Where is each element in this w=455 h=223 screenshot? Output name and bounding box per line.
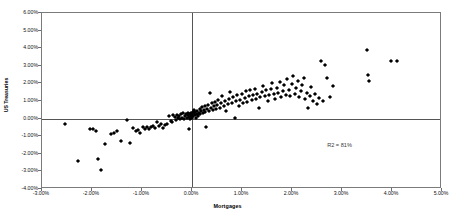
data-point <box>258 95 262 99</box>
zero-line-horizontal <box>42 119 440 120</box>
y-axis-tick-label: 5.00% <box>4 27 38 33</box>
data-point <box>270 80 274 84</box>
data-point <box>252 87 256 91</box>
data-point <box>298 89 302 93</box>
zero-line-vertical <box>192 13 193 187</box>
data-point <box>62 122 66 126</box>
x-axis-tick-mark <box>441 188 442 191</box>
y-axis-tick-label: -3.00% <box>4 167 38 173</box>
x-axis-tick-mark <box>241 188 242 191</box>
data-point <box>295 79 299 83</box>
data-point <box>235 93 239 97</box>
x-axis-tick-mark <box>291 188 292 191</box>
data-point <box>265 99 269 103</box>
data-point <box>217 106 221 110</box>
data-point <box>323 63 327 67</box>
data-point <box>276 90 280 94</box>
x-axis-tick-label: 5.00% <box>418 190 455 196</box>
data-point <box>331 84 335 88</box>
data-point <box>286 88 290 92</box>
y-axis-tick-label: -1.00% <box>4 132 38 138</box>
x-axis-tick-mark <box>341 188 342 191</box>
data-point <box>99 168 103 172</box>
data-point <box>204 124 208 128</box>
data-point <box>118 139 122 143</box>
data-point <box>228 90 232 94</box>
x-axis-tick-mark <box>391 188 392 191</box>
data-point <box>254 97 258 101</box>
data-point <box>186 127 190 131</box>
data-point <box>224 108 228 112</box>
data-point <box>313 92 317 96</box>
y-axis-tick-label: 0.00% <box>4 115 38 121</box>
data-point <box>115 129 119 133</box>
x-axis-title: Mortgages <box>0 203 455 209</box>
data-point <box>307 94 311 98</box>
data-point <box>274 85 278 89</box>
data-point <box>264 88 268 92</box>
data-point <box>102 142 106 146</box>
data-point <box>289 82 293 86</box>
x-axis-tick-mark <box>191 188 192 191</box>
data-point <box>153 126 157 130</box>
data-point <box>229 101 233 105</box>
data-point <box>389 59 393 63</box>
data-point <box>277 80 281 84</box>
x-axis-tick-mark <box>141 188 142 191</box>
data-point <box>366 72 370 76</box>
data-point <box>328 95 332 99</box>
data-point <box>170 120 174 124</box>
data-point <box>311 99 315 103</box>
data-point <box>303 97 307 101</box>
data-point <box>94 129 98 133</box>
y-axis-tick-label: -2.00% <box>4 150 38 156</box>
data-point <box>232 115 236 119</box>
y-axis-tick-label: 3.00% <box>4 62 38 68</box>
data-point <box>76 159 80 163</box>
data-point <box>268 87 272 91</box>
data-point <box>300 83 304 87</box>
data-point <box>138 131 142 135</box>
data-point <box>319 58 323 62</box>
data-point <box>297 95 301 99</box>
data-point <box>309 85 313 89</box>
data-point <box>395 59 399 63</box>
data-point <box>317 96 321 100</box>
data-point <box>279 95 283 99</box>
scatter-chart: US Treasuries 6.00%5.00%4.00%3.00%2.00%1… <box>0 0 455 223</box>
data-point <box>282 83 286 87</box>
r2-annotation: R2 = 81% <box>327 142 352 148</box>
data-point <box>367 79 371 83</box>
data-point <box>245 100 249 104</box>
data-point <box>301 76 305 80</box>
data-point <box>325 76 329 80</box>
data-point <box>96 157 100 161</box>
data-point <box>294 86 298 90</box>
data-point <box>239 91 243 95</box>
data-point <box>256 106 260 110</box>
data-point <box>321 99 325 103</box>
data-point <box>236 103 240 107</box>
x-axis-tick-mark <box>91 188 92 191</box>
data-point <box>291 74 295 78</box>
data-point <box>259 90 263 94</box>
data-point <box>280 89 284 93</box>
plot-area: R2 = 81% <box>41 12 441 188</box>
data-point <box>220 94 224 98</box>
data-point <box>288 94 292 98</box>
data-point <box>165 121 169 125</box>
data-point <box>292 91 296 95</box>
data-point <box>125 118 129 122</box>
data-point <box>285 77 289 81</box>
data-point <box>273 97 277 101</box>
data-point <box>306 106 310 110</box>
data-point <box>248 87 252 91</box>
y-axis-tick-label: 6.00% <box>4 9 38 15</box>
y-axis-tick-label: 1.00% <box>4 97 38 103</box>
data-point <box>128 141 132 145</box>
y-axis-tick-label: 2.00% <box>4 79 38 85</box>
y-axis-tick-label: 4.00% <box>4 44 38 50</box>
x-axis-tick-mark <box>41 188 42 191</box>
data-point <box>315 102 319 106</box>
data-point <box>365 48 369 52</box>
